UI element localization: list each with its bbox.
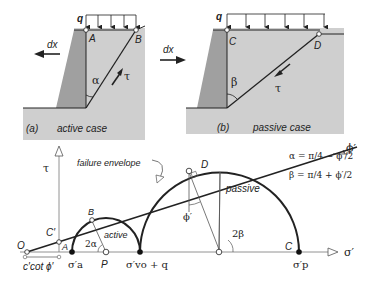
label-sigma-axis: σ′ [344, 246, 355, 259]
label-dx-a: dx [47, 39, 59, 50]
label-point-c: C [229, 36, 237, 47]
sigma-vo-marker [137, 249, 143, 255]
center-passive-marker [216, 249, 222, 255]
point-b-marker [134, 28, 139, 33]
label-sigma-a: σ′a [68, 259, 83, 270]
point-d-marker [186, 168, 192, 174]
formula-alpha: α = π/4 − ϕ′/2 [289, 151, 353, 161]
label-passive: passive [225, 183, 260, 194]
panel-passive-case: q C D dx β τ (b) passive case [160, 11, 344, 134]
point-p-marker [103, 249, 109, 255]
label-sigma-vo-q: σ′vo + q [126, 259, 169, 270]
label-2alpha: 2α [85, 239, 97, 249]
diagram-canvas: q A B dx α τ (a) active case [0, 0, 372, 288]
mohr-circle-diagram: τ σ′ failure envelope ϕ′ O C′ c′cot ϕ′ A… [17, 142, 357, 272]
label-c-cot-phi: c′cot ϕ′ [23, 261, 55, 272]
point-a-marker [84, 28, 89, 33]
label-point-d: D [201, 159, 208, 170]
label-phi-d: ϕ′ [183, 211, 193, 222]
label-active-case: active case [57, 123, 107, 134]
label-point-b: B [135, 34, 142, 45]
label-beta: β [231, 76, 237, 89]
label-2beta: 2β [232, 228, 244, 239]
label-tau-a: τ [124, 70, 130, 83]
point-b-marker [90, 218, 95, 223]
panel-active-case: q A B dx α τ (a) active case [23, 13, 145, 140]
sigma-a-marker [69, 249, 75, 255]
label-point-b: B [88, 207, 94, 217]
label-active: active [104, 230, 128, 240]
label-failure-envelope: failure envelope [77, 158, 141, 168]
label-tag-a: (a) [26, 123, 38, 134]
label-q-a: q [77, 13, 83, 24]
sigma-p-marker [296, 249, 302, 255]
label-point-a: A [88, 33, 96, 44]
label-point-a: A [61, 242, 68, 252]
label-origin-o: O [17, 240, 25, 251]
label-dx-b: dx [163, 44, 175, 55]
label-sigma-p: σ′p [293, 259, 309, 270]
label-q-b: q [216, 11, 222, 22]
formula-beta: β = π/4 + ϕ′/2 [289, 170, 352, 180]
label-passive-case: passive case [252, 122, 311, 133]
label-c-prime: C′ [46, 227, 56, 238]
origin-o-marker [25, 250, 30, 255]
label-point-d: D [314, 40, 321, 51]
label-tau-axis: τ [43, 162, 49, 175]
point-d-marker [317, 32, 322, 37]
label-tau-b: τ [275, 82, 281, 95]
label-tag-b: (b) [217, 122, 229, 133]
label-point-c: C [285, 241, 293, 252]
label-alpha: α [92, 74, 100, 87]
label-point-p: P [101, 259, 108, 270]
point-c-marker [225, 28, 230, 33]
point-c-prime-marker [57, 240, 62, 245]
